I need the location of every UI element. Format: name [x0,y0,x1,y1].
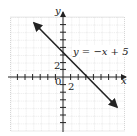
coordinate-plane: y x y = −x + 5 2 2 0 [0,0,137,136]
y-axis-label: y [54,5,61,16]
grid [11,17,125,131]
tick-label-y-2: 2 [54,60,60,71]
graph: y x y = −x + 5 2 2 0 [0,0,137,136]
origin-label: 0 [55,76,61,87]
x-axis-label: x [121,75,127,86]
tick-label-x-2: 2 [68,81,74,92]
equation-label: y = −x + 5 [72,46,129,57]
